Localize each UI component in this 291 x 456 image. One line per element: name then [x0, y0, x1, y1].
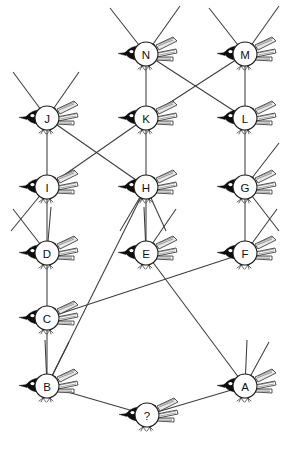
node-l[interactable]: L	[233, 106, 257, 130]
node-label-e: E	[142, 248, 150, 260]
diagram-canvas: ABCDEFGHIJKLMN?	[0, 0, 291, 456]
node-label-unknown: ?	[144, 410, 150, 422]
node-label-d: D	[43, 248, 51, 260]
node-label-k: K	[142, 113, 150, 125]
node-m[interactable]: M	[233, 42, 257, 66]
node-label-h: H	[142, 182, 150, 194]
edge-e-a	[146, 253, 245, 386]
node-d[interactable]: D	[35, 241, 59, 265]
node-g[interactable]: G	[233, 175, 257, 199]
node-label-n: N	[142, 49, 150, 61]
bird-graph: ABCDEFGHIJKLMN?	[0, 0, 291, 456]
node-b[interactable]: B	[35, 374, 59, 398]
node-label-c: C	[43, 313, 51, 325]
node-label-g: G	[241, 182, 250, 194]
node-k[interactable]: K	[134, 106, 158, 130]
node-label-m: M	[240, 49, 250, 61]
node-a[interactable]: A	[233, 374, 257, 398]
node-i[interactable]: I	[35, 175, 59, 199]
node-unknown[interactable]: ?	[135, 403, 159, 427]
node-label-f: F	[241, 248, 248, 260]
node-j[interactable]: J	[35, 106, 59, 130]
node-label-a: A	[241, 381, 249, 393]
node-e[interactable]: E	[134, 241, 158, 265]
node-label-j: J	[44, 113, 50, 125]
node-label-b: B	[43, 381, 51, 393]
bird-icons-layer	[19, 37, 276, 431]
node-label-i: I	[45, 182, 48, 194]
node-c[interactable]: C	[35, 306, 59, 330]
node-h[interactable]: H	[134, 175, 158, 199]
node-n[interactable]: N	[134, 42, 158, 66]
node-f[interactable]: F	[233, 241, 257, 265]
node-label-l: L	[242, 113, 249, 125]
